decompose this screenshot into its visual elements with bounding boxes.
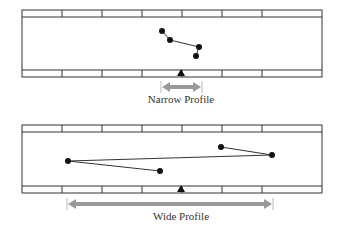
profile-point	[269, 152, 275, 158]
profile-point	[193, 53, 199, 59]
profile-diagram: Narrow Profile Wide Profile	[0, 0, 359, 233]
wide-profile-panel	[22, 125, 322, 210]
profile-point	[65, 158, 71, 164]
narrow-profile-panel	[22, 10, 322, 93]
narrow-profile-label: Narrow Profile	[148, 93, 214, 105]
wide-profile-label: Wide Profile	[153, 210, 209, 222]
arrow-head-left-icon	[68, 199, 76, 209]
profile-point	[157, 168, 163, 174]
arrow-head-right-icon	[193, 82, 201, 92]
road-outline	[22, 10, 322, 77]
profile-point	[159, 28, 165, 34]
arrow-head-left-icon	[162, 82, 170, 92]
profile-point	[167, 37, 173, 43]
profile-point	[196, 44, 202, 50]
arrow-head-right-icon	[264, 199, 272, 209]
profile-point	[218, 144, 224, 150]
